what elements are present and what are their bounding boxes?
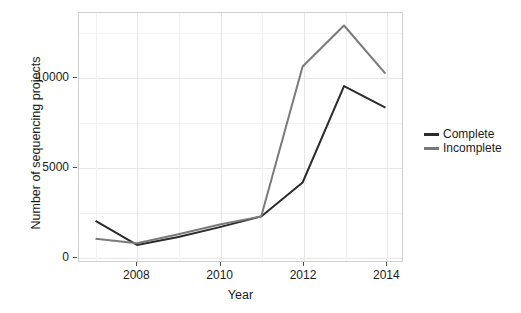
y-axis-title: Number of sequencing projects [29,33,43,253]
y-tick-mark [73,257,77,258]
legend-key-swatch [424,133,439,136]
legend-item-incomplete: Incomplete [424,141,518,155]
x-tick-mark [386,262,387,266]
series-line-incomplete [96,25,386,243]
plot-lines [79,13,402,261]
x-tick-label: 2008 [106,268,166,282]
x-tick-label: 2012 [273,268,333,282]
legend-label: Incomplete [443,141,502,155]
y-tick-mark [73,77,77,78]
x-tick-mark [303,262,304,266]
x-tick-label: 2010 [190,268,250,282]
x-axis-title: Year [78,288,403,302]
legend: CompleteIncomplete [424,127,518,155]
legend-item-complete: Complete [424,127,518,141]
legend-label: Complete [443,127,494,141]
x-tick-mark [136,262,137,266]
y-tick-label: 5000 [23,160,69,174]
y-tick-label: 0 [23,250,69,264]
y-tick-label: 10000 [23,70,69,84]
plot-panel [78,12,403,262]
x-tick-mark [220,262,221,266]
line-chart-figure: Number of sequencing projects Year Compl… [0,0,521,313]
y-tick-mark [73,167,77,168]
legend-key-swatch [424,147,439,150]
x-tick-label: 2014 [356,268,416,282]
